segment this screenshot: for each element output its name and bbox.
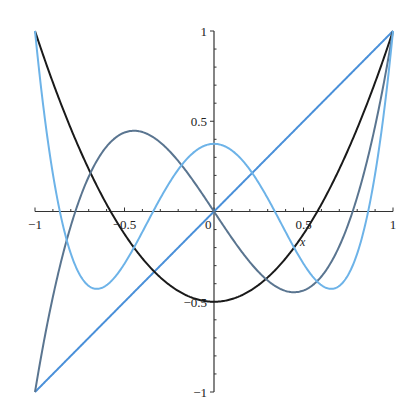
y-tick-label: −0.5 [183,295,207,310]
x-tick-label: −1 [28,217,42,232]
x-tick-label: 0.5 [295,217,311,232]
x-tick-label: 1 [390,217,397,232]
y-tick-label: 0.5 [191,114,207,129]
x-axis-title: x [299,235,306,249]
x-tick-label: 0 [205,217,212,232]
y-tick-label: −1 [193,385,207,400]
y-tick-label: 1 [201,24,208,39]
x-tick-label: −0.5 [113,217,137,232]
chart-plot-area: −1−0.500.5110.5−0.5−1 x [0,0,416,418]
